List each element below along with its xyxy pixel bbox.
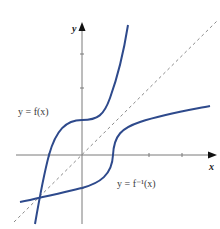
curve-f-label: y = f(x) (18, 106, 49, 117)
x-axis-arrow-icon (208, 152, 217, 159)
y-axis-label: y (72, 23, 76, 34)
x-axis-label: x (209, 161, 214, 172)
identity-line (14, 20, 218, 222)
y-axis-arrow-icon (79, 22, 86, 31)
curve-f-inverse-label: y = f⁻¹(x) (117, 178, 156, 189)
axis-ticks (49, 54, 182, 188)
